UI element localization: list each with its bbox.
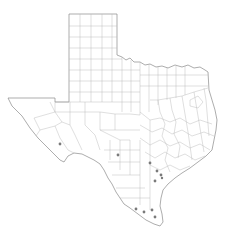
county-marker [154, 180, 157, 183]
map-canvas [0, 0, 233, 239]
county-marker [135, 208, 138, 211]
texas-outline [8, 14, 217, 226]
county-marker [149, 162, 152, 165]
county-marker [160, 174, 163, 177]
county-marker [117, 154, 120, 157]
county-marker [161, 177, 163, 179]
county-marker [154, 216, 157, 219]
county-marker [59, 143, 62, 146]
texas-county-map [0, 0, 233, 239]
county-marker [151, 209, 154, 212]
county-marker [143, 211, 146, 214]
county-marker [156, 170, 159, 173]
